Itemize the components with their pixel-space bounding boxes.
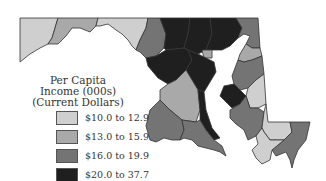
legend-swatch-10-12 bbox=[56, 111, 78, 125]
legend-label: $10.0 to 12.9 bbox=[85, 112, 149, 123]
region-cecil bbox=[236, 18, 260, 48]
legend-item: $13.0 to 15.9 bbox=[56, 130, 156, 146]
legend-swatch-16-19 bbox=[56, 149, 78, 163]
legend-title: Per Capita Income (000s) (Current Dollar… bbox=[28, 75, 128, 108]
legend-title-line-3: (Current Dollars) bbox=[28, 97, 128, 108]
legend-item: $10.0 to 12.9 bbox=[56, 111, 156, 127]
legend-label: $13.0 to 15.9 bbox=[85, 131, 149, 142]
region-wicomico bbox=[262, 104, 292, 140]
legend-label: $20.0 to 37.7 bbox=[85, 169, 149, 180]
legend-item: $16.0 to 19.9 bbox=[56, 149, 156, 165]
legend-label: $16.0 to 19.9 bbox=[85, 150, 149, 161]
legend-swatch-13-15 bbox=[56, 130, 78, 144]
legend-swatch-20-37 bbox=[56, 168, 78, 181]
legend-item: $20.0 to 37.7 bbox=[56, 168, 156, 181]
